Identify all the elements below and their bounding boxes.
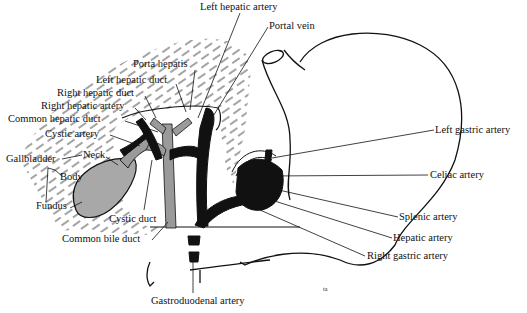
label-left-hepatic-duct: Left hepatic duct xyxy=(96,75,167,86)
label-porta-hepatis: Porta hepatis xyxy=(133,59,188,70)
label-cystic-duct: Cystic duct xyxy=(109,214,157,225)
label-right-hepatic-artery: Right hepatic artery xyxy=(41,101,124,112)
label-common-hepatic-duct: Common hepatic duct xyxy=(8,114,101,125)
label-common-bile-duct: Common bile duct xyxy=(62,234,140,245)
label-neck: Neck xyxy=(83,150,105,161)
label-hepatic-artery: Hepatic artery xyxy=(393,233,453,244)
artist-signature: ta xyxy=(323,286,327,292)
label-right-gastric-artery: Right gastric artery xyxy=(367,251,448,262)
label-splenic-artery: Splenic artery xyxy=(399,212,458,223)
label-portal-vein: Portal vein xyxy=(269,21,315,32)
label-fundus: Fundus xyxy=(36,201,67,212)
label-gallbladder: Gallbladder xyxy=(6,154,56,165)
diagram-artwork xyxy=(0,0,527,313)
label-left-gastric-artery: Left gastric artery xyxy=(435,125,510,136)
label-cystic-artery: Cystic artery xyxy=(45,129,99,140)
label-body: Body xyxy=(60,172,83,183)
label-gastroduodenal-artery: Gastroduodenal artery xyxy=(151,296,245,307)
label-right-hepatic-duct: Right hepatic duct xyxy=(57,88,134,99)
label-left-hepatic-artery: Left hepatic artery xyxy=(200,2,278,13)
anatomy-diagram: Left hepatic artery Portal vein Porta he… xyxy=(0,0,527,313)
label-celiac-artery: Celiac artery xyxy=(430,170,484,181)
